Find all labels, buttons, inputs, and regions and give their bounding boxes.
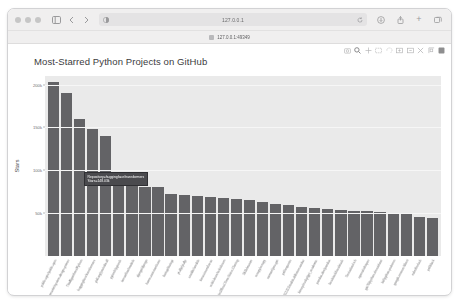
x-axis-tick-label: django/django xyxy=(136,259,149,278)
sidebar-icon[interactable] xyxy=(50,14,62,26)
bar[interactable] xyxy=(192,196,203,256)
y-axis: Stars 50k100k150k200k xyxy=(8,76,45,256)
pan-icon[interactable] xyxy=(365,47,372,54)
gridline xyxy=(45,85,441,86)
gridline xyxy=(45,213,441,214)
x-axis-tick-label: pytorch/pytorch xyxy=(109,259,122,280)
x-axis-ticks: public-apis/public-apisdonnemartin/syste… xyxy=(45,257,441,296)
bar[interactable] xyxy=(401,214,412,256)
bar[interactable] xyxy=(335,210,346,256)
reset-axes-icon[interactable] xyxy=(428,47,435,54)
x-axis-tick-label: yt-dlp/yt-dlp xyxy=(177,259,188,275)
plot-area[interactable] xyxy=(45,76,441,256)
bar[interactable] xyxy=(374,212,385,256)
bar[interactable] xyxy=(244,200,255,256)
x-axis-tick-label: google-research/bert xyxy=(393,259,410,286)
bar[interactable] xyxy=(257,202,268,256)
back-button[interactable] xyxy=(65,14,77,26)
bar-series xyxy=(45,76,441,256)
reload-icon[interactable] xyxy=(357,17,363,23)
zoom-out-icon[interactable] xyxy=(407,47,414,54)
forward-button[interactable] xyxy=(80,14,92,26)
zoom-window-button[interactable] xyxy=(35,17,41,23)
x-axis-tick-label: scrapy/scrapy xyxy=(254,259,266,278)
bar[interactable] xyxy=(100,136,111,256)
bar[interactable] xyxy=(231,199,242,256)
bar[interactable] xyxy=(322,209,333,256)
lasso-select-icon[interactable] xyxy=(386,47,393,54)
navigation-group xyxy=(50,14,92,26)
x-axis-tick-label: tensorflow/models xyxy=(120,259,135,283)
zoom-in-icon[interactable] xyxy=(396,47,403,54)
box-select-icon[interactable] xyxy=(375,47,382,54)
x-axis-tick-label: psf/black xyxy=(427,259,436,272)
minimize-window-button[interactable] xyxy=(25,17,31,23)
bar[interactable] xyxy=(152,187,163,256)
tabs-overview-icon[interactable] xyxy=(432,14,444,26)
x-axis-tick-label: 3b1b/manim xyxy=(242,259,254,276)
zoom-in-magnifier-icon[interactable] xyxy=(354,47,361,54)
camera-icon[interactable] xyxy=(344,47,351,54)
x-axis-tick-label: fastapi/fastapi xyxy=(162,259,174,278)
x-axis-tick-label: Textualize/rich xyxy=(345,259,358,278)
downloads-icon[interactable] xyxy=(375,14,387,26)
x-axis-tick-label: psf/requests xyxy=(281,259,292,276)
bar[interactable] xyxy=(126,181,137,256)
bar[interactable] xyxy=(414,217,425,256)
browser-toolbar: 127.0.0.1 xyxy=(8,9,451,31)
x-axis-tick-label: nvbn/thefuck xyxy=(411,259,423,276)
bar[interactable] xyxy=(165,194,176,256)
reader-view-icon[interactable] xyxy=(103,17,109,23)
toolbar-right-group: + xyxy=(369,14,444,26)
bar[interactable] xyxy=(270,204,281,256)
bar[interactable] xyxy=(139,187,150,256)
window-traffic-lights[interactable] xyxy=(15,17,41,23)
bar[interactable] xyxy=(61,93,72,256)
x-axis-tick-label: ansible/ansible xyxy=(188,259,201,279)
y-axis-tick-label: 50k xyxy=(35,211,42,216)
bar[interactable] xyxy=(218,198,229,256)
y-axis-tick-label: 100k xyxy=(33,168,42,173)
bar[interactable] xyxy=(309,208,320,256)
bar[interactable] xyxy=(48,82,59,256)
bar[interactable] xyxy=(205,197,216,256)
gridline xyxy=(45,127,441,128)
close-window-button[interactable] xyxy=(15,17,21,23)
tooltip-stars: Stars=148.03k xyxy=(88,179,145,184)
y-axis-label: Stars xyxy=(14,159,20,172)
x-axis-tick-label: soimort/you-get xyxy=(266,259,280,280)
share-icon[interactable] xyxy=(394,14,406,26)
page-content: Most-Starred Python Projects on GitHub S… xyxy=(8,44,451,294)
address-bar-text[interactable]: 127.0.0.1 xyxy=(112,17,354,23)
bar[interactable] xyxy=(74,119,85,256)
browser-window: 127.0.0.1 xyxy=(7,8,452,296)
autoscale-icon[interactable] xyxy=(417,47,424,54)
bar[interactable] xyxy=(388,213,399,256)
bar[interactable] xyxy=(113,177,124,256)
x-axis-tick-label: ytdl-org/youtube-dl xyxy=(94,259,110,284)
x-axis-tick-label: openai/whisper xyxy=(357,259,370,279)
bar[interactable] xyxy=(296,207,307,256)
bar[interactable] xyxy=(427,218,438,256)
chart-title: Most-Starred Python Projects on GitHub xyxy=(34,56,207,67)
tab-strip: 127.0.0.1:49349 xyxy=(8,31,451,44)
favicon-icon xyxy=(209,35,214,40)
plotly-modebar xyxy=(344,47,446,54)
hover-tooltip: Repository=huggingface/transformers Star… xyxy=(84,172,148,186)
y-axis-tick-label: 150k xyxy=(33,125,42,130)
new-tab-button[interactable]: + xyxy=(413,14,425,26)
bar[interactable] xyxy=(348,211,359,256)
bar[interactable] xyxy=(361,211,372,256)
tab-title: 127.0.0.1:49349 xyxy=(217,35,250,40)
y-axis-tick-label: 200k xyxy=(33,82,42,87)
browser-tab[interactable]: 127.0.0.1:49349 xyxy=(209,35,250,40)
plotly-logo-icon[interactable] xyxy=(438,47,445,54)
bar[interactable] xyxy=(179,195,190,256)
address-bar[interactable]: 127.0.0.1 xyxy=(99,13,367,26)
x-axis-tick-label: home-assistant/core xyxy=(145,259,162,285)
bar[interactable] xyxy=(87,129,98,256)
